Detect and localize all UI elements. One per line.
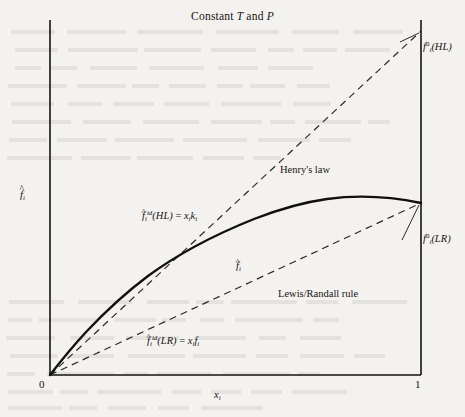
curve-label-hat: ^ xyxy=(235,258,239,267)
id-lr-hat: ^ xyxy=(146,333,150,342)
lewis-randall-annotation: Lewis/Randall rule xyxy=(278,289,358,300)
id-hl-rhs-k-subscript: i xyxy=(195,215,197,223)
lewis-randall-reference-label: f0i(LR) xyxy=(423,233,451,246)
hl-reference-leader xyxy=(400,33,419,42)
id-hl-hat: ^ xyxy=(141,208,145,217)
ideal-lewis-randall-equation: ^fiid(LR) = xifi xyxy=(147,335,199,348)
id-lr-paren: (LR) xyxy=(157,335,176,346)
x-axis-label: xi xyxy=(214,389,221,402)
x-axis-tick-zero: 0 xyxy=(39,378,45,390)
ideal-henrys-law-equation: ^fiid(HL) = xiki xyxy=(142,210,197,223)
id-lr-equals: = xyxy=(177,335,188,346)
y-axis-label-hat: ^ xyxy=(19,185,23,194)
henrys-law-annotation: Henry's law xyxy=(280,165,330,176)
x-axis-label-subscript: i xyxy=(219,394,221,402)
henrys-law-reference-label: f0i(HL) xyxy=(423,41,452,54)
x-axis-tick-one: 1 xyxy=(415,378,421,390)
hl-ref-paren: (HL) xyxy=(431,41,451,52)
plot-canvas xyxy=(0,0,465,417)
lewis-randall-line xyxy=(50,203,421,375)
id-hl-paren: (HL) xyxy=(152,210,172,221)
henrys-law-line xyxy=(50,31,421,375)
id-hl-equals: = xyxy=(173,210,184,221)
fugacity-curve xyxy=(50,197,421,375)
fugacity-figure: Constant T and P 0 1 xi ^fi f0i(HL) f0i(… xyxy=(0,0,465,417)
id-lr-rhs-f-subscript: i xyxy=(197,340,199,348)
y-axis-label-subscript: i xyxy=(23,194,25,202)
y-axis-label: ^fi xyxy=(20,188,25,202)
lr-ref-paren: (LR) xyxy=(431,233,450,244)
fugacity-curve-label: ^fi xyxy=(236,261,241,273)
